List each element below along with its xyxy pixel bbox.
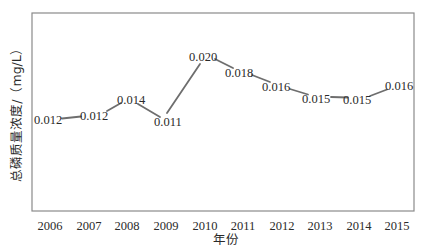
line-segment [62,117,81,119]
line-segment [167,64,200,113]
x-tick-label: 2012 [270,219,295,233]
data-label: 0.016 [262,80,290,94]
data-label: 0.020 [189,50,217,64]
x-tick-label: 2013 [308,219,333,233]
data-label: 0.015 [302,92,330,106]
x-tick-label: 2007 [77,219,102,233]
data-label: 0.012 [80,109,108,123]
x-tick-label: 2006 [38,219,63,233]
x-tick-label: 2008 [115,219,140,233]
data-label: 0.016 [385,79,413,93]
x-tick-label: 2009 [154,219,179,233]
x-tick-label: 2015 [385,219,410,233]
data-labels: 0.012 0.012 0.014 0.011 0.020 0.018 0.01… [34,50,413,129]
data-label: 0.012 [34,113,62,127]
x-tick-label: 2011 [231,219,256,233]
x-tick-label: 2010 [193,219,218,233]
data-label: 0.014 [117,93,146,107]
data-label: 0.018 [225,66,253,80]
x-axis-ticks: 2006 2007 2008 2009 2010 2011 2012 2013 … [38,219,410,233]
data-label: 0.011 [154,115,182,129]
y-axis-label: 总磷质量浓度/（mg/L） [9,42,24,182]
x-axis-label: 年份 [213,232,239,247]
line-chart: 0.012 0.012 0.014 0.011 0.020 0.018 0.01… [0,0,425,252]
x-tick-label: 2014 [347,219,373,233]
data-label: 0.015 [343,93,371,107]
